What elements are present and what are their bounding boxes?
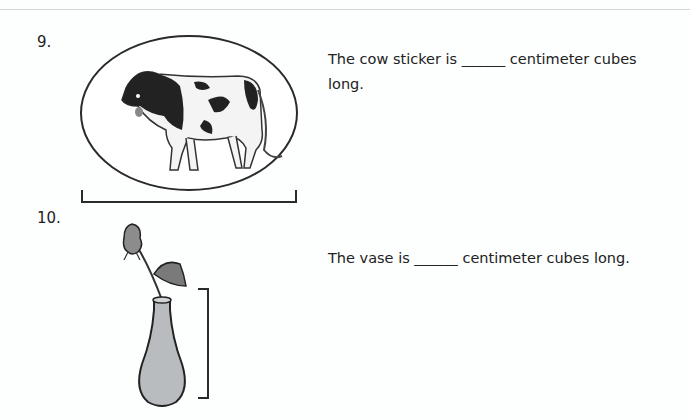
top-divider <box>0 9 690 10</box>
leaf-icon <box>154 262 186 286</box>
question-9-line1: The cow sticker is ______ centimeter cub… <box>328 47 678 72</box>
cow-sticker-image <box>78 30 308 210</box>
rose-vase-image <box>110 218 220 418</box>
question-10-text: The vase is ______ centimeter cubes long… <box>328 246 678 271</box>
question-9-text: The cow sticker is ______ centimeter cub… <box>328 47 678 97</box>
rose-icon <box>124 224 142 254</box>
vase-icon <box>139 300 185 406</box>
question-9-line2: long. <box>328 72 678 97</box>
measure-bracket-horizontal <box>82 190 296 202</box>
question-9-number: 9. <box>37 33 51 51</box>
measure-bracket-vertical <box>198 289 208 398</box>
question-10-number: 10. <box>37 209 61 227</box>
